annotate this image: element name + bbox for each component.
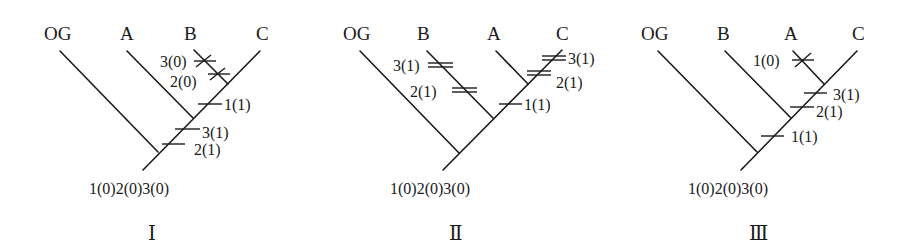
mark-label-stem-1-1: 1(1) [524, 96, 551, 114]
branch-og [658, 51, 757, 152]
mark-label-stem-2-1: 2(1) [194, 141, 221, 159]
mark-label-c-1-1: 1(1) [224, 96, 251, 114]
cladogram-figure: OG A B C 3(0) 2(0) 1(1) 3(1) 2(1) 1(0)2(… [0, 0, 920, 251]
taxon-og-label: OG [343, 23, 371, 44]
tree-number-label: Ⅲ [749, 222, 768, 244]
mark-label-a-1-0: 1(0) [753, 52, 780, 70]
cross-mark-icon [792, 53, 814, 67]
taxon-b-label: B [417, 23, 430, 44]
root-states-label: 1(0)2(0)3(0) [89, 180, 169, 198]
mark-label-c-2-1: 2(1) [556, 74, 583, 92]
cross-mark-icon [208, 68, 230, 80]
taxon-a-label: A [487, 23, 501, 44]
tree-number-label: Ⅱ [449, 222, 463, 244]
taxon-og-label: OG [44, 23, 72, 44]
branch-b [427, 51, 493, 118]
branch-og [60, 51, 158, 152]
root-states-label: 1(0)2(0)3(0) [390, 180, 470, 198]
mark-label-b-3-1: 3(1) [393, 57, 420, 75]
mark-label-c-3-1: 3(1) [568, 50, 595, 68]
taxon-b-label: B [717, 23, 730, 44]
root-states-label: 1(0)2(0)3(0) [688, 180, 768, 198]
taxon-og-label: OG [641, 23, 669, 44]
taxon-a-label: A [120, 23, 134, 44]
mark-label-ac-3-1: 3(1) [833, 86, 860, 104]
taxon-c-label: C [556, 23, 569, 44]
taxon-c-label: C [852, 23, 865, 44]
tree-number-label: Ⅰ [148, 222, 156, 244]
mark-label-b-3-0: 3(0) [160, 53, 187, 71]
taxon-b-label: B [184, 23, 197, 44]
tree-1: OG A B C 3(0) 2(0) 1(1) 3(1) 2(1) 1(0)2(… [44, 23, 269, 244]
cross-mark-icon [194, 55, 216, 67]
branch-a [496, 51, 528, 84]
mark-label-abc-2-1: 2(1) [816, 103, 843, 121]
taxon-a-label: A [784, 23, 798, 44]
mark-label-stem-1-1: 1(1) [791, 128, 818, 146]
mark-label-b-2-1: 2(1) [410, 83, 437, 101]
mark-label-b-2-0: 2(0) [170, 73, 197, 91]
tree-2: OG B A C 3(1) 2(1) 3(1) 2(1) 1(1) [343, 23, 595, 244]
tree-3: OG B A C 1(0) 3(1) 2(1) 1(1) 1(0)2(0)3(0… [641, 23, 865, 244]
mark-label-stem-3-1: 3(1) [202, 124, 229, 142]
taxon-c-label: C [256, 23, 269, 44]
